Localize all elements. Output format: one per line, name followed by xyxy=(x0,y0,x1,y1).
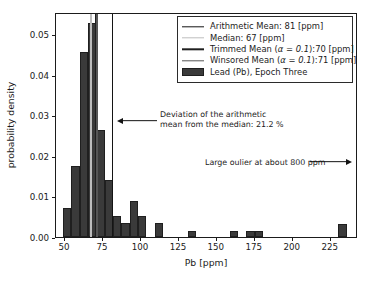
x-tick-label: 125 xyxy=(170,242,187,252)
histogram-figure: probability density 0.000.010.020.030.04… xyxy=(0,0,379,286)
x-tick-label: 200 xyxy=(283,242,300,252)
vline-winsored-mean xyxy=(96,14,97,237)
arrow-shaft xyxy=(310,161,347,163)
deviation-annotation-arrow xyxy=(117,117,157,124)
x-tick-label: 225 xyxy=(321,242,338,252)
x-tick-mark xyxy=(178,238,179,241)
x-tick-label: 150 xyxy=(208,242,225,252)
legend-box: Arithmetic Mean: 81 [ppm]Median: 67 [ppm… xyxy=(177,16,353,83)
legend-line-icon xyxy=(182,21,204,32)
x-tick-label: 75 xyxy=(97,242,108,252)
arrow-shaft xyxy=(122,120,157,122)
legend-patch-icon xyxy=(182,67,204,78)
alpha-symbol: α = 0.1 xyxy=(280,55,311,65)
outlier-annotation-arrow xyxy=(310,158,352,165)
x-tick-label: 50 xyxy=(59,242,70,252)
legend-label: Arithmetic Mean: 81 [ppm] xyxy=(210,21,323,32)
legend-arithmetic-mean: Arithmetic Mean: 81 [ppm] xyxy=(182,21,347,32)
y-tick-label: 0.03 xyxy=(30,111,49,121)
y-tick-label: 0.04 xyxy=(30,71,49,81)
arrow-head-icon xyxy=(346,159,352,165)
line-swatch xyxy=(182,26,204,27)
legend-label: Trimmed Mean (α = 0.1):70 [ppm] xyxy=(210,44,354,55)
line-swatch xyxy=(182,49,204,50)
y-tick-mark xyxy=(52,238,55,239)
legend-label: Winsored Mean (α = 0.1):71 [ppm] xyxy=(210,55,356,66)
x-tick-mark xyxy=(330,238,331,241)
x-tick-label: 100 xyxy=(132,242,149,252)
vline-arithmetic-mean xyxy=(112,14,113,237)
legend-winsored-mean: Winsored Mean (α = 0.1):71 [ppm] xyxy=(182,55,347,66)
x-axis-label: Pb [ppm] xyxy=(185,257,228,268)
line-swatch xyxy=(182,60,204,61)
y-axis-label: probability density xyxy=(5,82,16,169)
legend-histogram-patch: Lead (Pb), Epoch Three xyxy=(182,67,347,78)
y-tick-label: 0.05 xyxy=(30,30,49,40)
legend-line-icon xyxy=(182,33,204,44)
legend-line-icon xyxy=(182,44,204,55)
x-tick-mark xyxy=(216,238,217,241)
legend-trimmed-mean: Trimmed Mean (α = 0.1):70 [ppm] xyxy=(182,44,347,55)
legend-label: Median: 67 [ppm] xyxy=(210,33,285,44)
y-tick-label: 0.01 xyxy=(30,192,49,202)
x-tick-mark xyxy=(292,238,293,241)
x-tick-mark xyxy=(140,238,141,241)
legend-line-icon xyxy=(182,55,204,66)
x-tick-label: 175 xyxy=(246,242,263,252)
alpha-symbol: α = 0.1 xyxy=(278,44,309,54)
y-tick-label: 0.02 xyxy=(30,152,49,162)
legend-median: Median: 67 [ppm] xyxy=(182,32,347,43)
line-swatch xyxy=(182,37,204,38)
outlier-annotation-text: Large oulier at about 800 ppm xyxy=(205,158,326,168)
y-tick-label: 0.00 xyxy=(30,233,49,243)
x-tick-mark xyxy=(64,238,65,241)
vline-median xyxy=(90,14,91,237)
legend-label: Lead (Pb), Epoch Three xyxy=(210,67,307,78)
deviation-annotation-text: Deviation of the arithmetic mean from th… xyxy=(160,110,284,129)
x-tick-mark xyxy=(254,238,255,241)
x-tick-mark xyxy=(102,238,103,241)
patch-swatch xyxy=(182,68,204,77)
